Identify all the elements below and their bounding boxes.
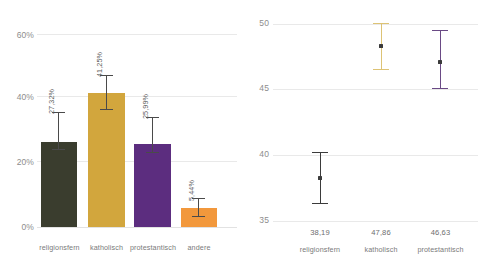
x-category-label-andere: andere (177, 243, 221, 252)
x-category-label-katholisch: katholisch (356, 245, 406, 254)
y-tick-label-40: 40 (245, 149, 269, 159)
x-category-label-protestantisch: protestantisch (126, 243, 180, 252)
errorbar-cap-top-protestantisch (432, 30, 448, 31)
y-tick-label-35: 35 (245, 215, 269, 225)
bar-value-religionsfern: 27,32% (47, 89, 56, 114)
chart-figure: 60% 40% 20% 0% 27,32% 41,25% 25,99% 5,44… (0, 0, 486, 270)
errorbar-point-katholisch[interactable] (379, 44, 383, 48)
errorbar-stem-protestantisch (440, 30, 441, 88)
y-tick-label-0: 0% (4, 222, 34, 232)
bar-value-protestantisch: 25,99% (141, 94, 150, 119)
errorbar-cap-bottom-religionsfern (312, 203, 328, 204)
y-tick-label-60: 60% (4, 30, 34, 40)
bar-errorcap-bottom-protestantisch (146, 152, 159, 153)
bar-errorcap-bottom-andere (192, 216, 205, 217)
y-tick-label-20: 20% (4, 157, 34, 167)
bar-value-katholisch: 41,25% (95, 52, 104, 77)
errorbar-value-protestantisch: 46,63 (413, 228, 468, 237)
gridline-35 (273, 221, 478, 222)
y-tick-label-45: 45 (245, 83, 269, 93)
axis-baseline (37, 227, 237, 228)
bar-errorbar-katholisch (106, 75, 107, 109)
bar-value-andere: 5,44% (187, 180, 196, 201)
bar-errorbar-protestantisch (152, 117, 153, 152)
bar-protestantisch[interactable] (134, 144, 171, 227)
x-category-label-religionsfern: religionsfern (293, 245, 347, 254)
errorbar-cap-top-katholisch (373, 23, 389, 24)
bar-katholisch[interactable] (88, 93, 125, 227)
gridline-60 (37, 34, 237, 35)
errorbar-cap-bottom-katholisch (373, 69, 389, 70)
bar-errorbar-andere (198, 198, 199, 216)
errorbar-point-protestantisch[interactable] (438, 60, 442, 64)
x-category-label-religionsfern: religionsfern (33, 243, 86, 252)
bar-errorcap-bottom-religionsfern (52, 149, 65, 150)
errorbar-value-katholisch: 47,86 (356, 228, 406, 237)
y-tick-label-40: 40% (4, 92, 34, 102)
errorbar-chart-panel: 50 45 40 35 38,19 47,86 46,63 religionsf… (243, 0, 486, 270)
x-category-label-protestantisch: protestantisch (413, 245, 468, 254)
bar-chart-panel: 60% 40% 20% 0% 27,32% 41,25% 25,99% 5,44… (0, 0, 243, 270)
bar-andere[interactable] (181, 208, 217, 227)
errorbar-value-religionsfern: 38,19 (293, 228, 347, 237)
errorbar-cap-bottom-protestantisch (432, 88, 448, 89)
x-category-label-katholisch: katholisch (82, 243, 131, 252)
bar-errorbar-religionsfern (58, 112, 59, 149)
bar-religionsfern[interactable] (41, 142, 77, 227)
y-tick-label-50: 50 (245, 18, 269, 28)
errorbar-point-religionsfern[interactable] (318, 176, 322, 180)
gridline-40 (37, 96, 237, 97)
gridline-40 (273, 155, 478, 156)
bar-errorcap-bottom-katholisch (100, 109, 113, 110)
errorbar-cap-top-religionsfern (312, 152, 328, 153)
